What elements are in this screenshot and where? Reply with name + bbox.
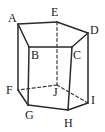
edge-d-c	[72, 33, 88, 47]
vertex-label-e: E	[51, 6, 58, 18]
vertex-label-g: G	[25, 109, 34, 121]
vertex-label-a: A	[8, 12, 17, 24]
edge-j-f	[18, 85, 57, 90]
edge-h-i	[68, 103, 88, 110]
vertex-label-c: C	[73, 49, 81, 61]
vertex-label-b: B	[31, 49, 39, 61]
edge-i-j	[57, 85, 88, 103]
vertex-label-i: I	[91, 94, 95, 106]
geometry-figure: AEDBCFGHIJ	[0, 0, 105, 132]
edge-b-g	[28, 47, 29, 105]
vertex-label-j: J	[53, 86, 58, 98]
edge-e-d	[57, 22, 88, 33]
edge-a-e	[18, 22, 57, 24]
edge-c-h	[68, 47, 72, 110]
edge-g-h	[28, 105, 68, 110]
edge-f-g	[18, 90, 28, 105]
vertex-label-d: D	[90, 24, 99, 36]
edge-b-a	[18, 24, 29, 47]
vertex-label-h: H	[64, 117, 73, 129]
vertex-label-f: F	[6, 84, 13, 96]
